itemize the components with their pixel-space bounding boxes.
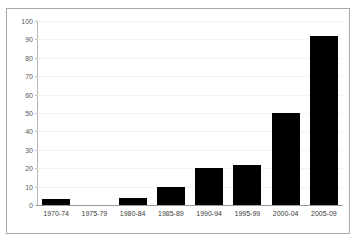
y-tick-label: 60 [25,91,33,98]
y-tick-label: 10 [25,183,33,190]
bar [157,187,185,205]
y-tick-label: 0 [29,202,33,209]
bar-slot [305,21,343,205]
bar-slot [267,21,305,205]
y-tick-label: 30 [25,146,33,153]
x-tick-label: 2005-09 [311,210,337,217]
x-tick-label: 1970-74 [43,210,69,217]
bar [233,165,261,205]
bar-slot [75,21,113,205]
plot-area: 0102030405060708090100 [37,21,343,205]
bar [195,168,223,205]
bar-slot [114,21,152,205]
y-tick-label: 20 [25,165,33,172]
bar-slot [152,21,190,205]
bar [310,36,338,205]
bar-slot [228,21,266,205]
y-tick-mark [35,205,37,206]
x-tick-label: 1980-84 [120,210,146,217]
y-tick-label: 90 [25,36,33,43]
y-tick-label: 70 [25,73,33,80]
x-tick-label: 1975-79 [82,210,108,217]
y-tick-label: 100 [21,18,33,25]
y-tick-label: 40 [25,128,33,135]
bar-slot [190,21,228,205]
y-tick-label: 80 [25,54,33,61]
bar [119,198,147,205]
x-tick-label: 2000-04 [273,210,299,217]
bar [272,113,300,205]
x-tick-label: 1995-99 [235,210,261,217]
x-tick-label: 1990-94 [196,210,222,217]
x-tick-label: 1985-89 [158,210,184,217]
chart-frame: 0102030405060708090100 1970-741975-79198… [6,8,350,234]
bar [42,199,70,205]
y-tick-label: 50 [25,110,33,117]
x-axis-line [37,205,343,206]
bar-slot [37,21,75,205]
